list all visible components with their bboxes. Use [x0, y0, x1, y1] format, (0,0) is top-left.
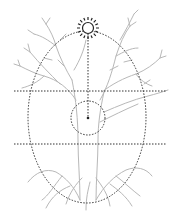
tree-diagram: [0, 0, 178, 219]
diagram-svg: [0, 0, 178, 219]
tree-icon: [14, 10, 168, 210]
sun-icon: [77, 17, 99, 39]
dotted-ellipse: [28, 31, 146, 203]
center-dot: [87, 117, 90, 120]
